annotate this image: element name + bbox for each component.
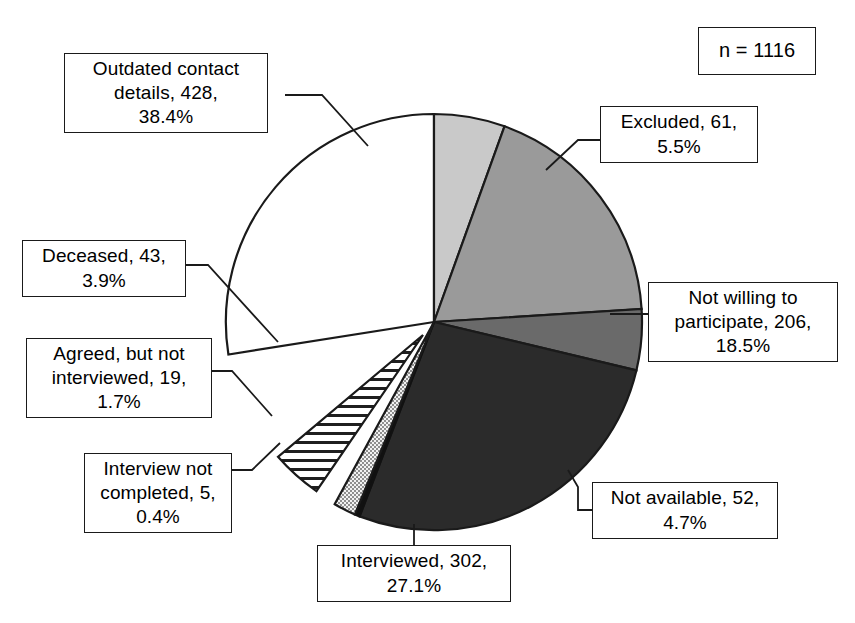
callout-agreed-label: Agreed, but not interviewed, 19, 1.7% xyxy=(52,342,187,415)
callout-not-available[interactable]: Not available, 52, 4.7% xyxy=(592,482,778,539)
callout-not-completed-label: Interview not completed, 5, 0.4% xyxy=(100,457,215,530)
callout-not-available-label: Not available, 52, 4.7% xyxy=(611,486,760,535)
leader-line-not-completed xyxy=(231,443,280,470)
callout-agreed-but-not-interviewed[interactable]: Agreed, but not interviewed, 19, 1.7% xyxy=(26,338,212,418)
leader-line-agreed xyxy=(211,371,272,416)
sample-size-label: n = 1116 xyxy=(719,38,795,64)
callout-outdated-label: Outdated contact details, 428, 38.4% xyxy=(93,57,239,130)
sample-size-box: n = 1116 xyxy=(698,27,816,75)
callout-not-willing-to-participate[interactable]: Not willing to participate, 206, 18.5% xyxy=(648,282,838,362)
callout-excluded-label: Excluded, 61, 5.5% xyxy=(621,110,737,159)
callout-interviewed-label: Interviewed, 302, 27.1% xyxy=(341,549,487,598)
callout-outdated-contact-details[interactable]: Outdated contact details, 428, 38.4% xyxy=(64,53,268,133)
leader-line-not-available xyxy=(568,470,592,510)
callout-not-willing-label: Not willing to participate, 206, 18.5% xyxy=(675,286,812,359)
pie-chart-figure: n = 1116 Outdated contact details, 428, … xyxy=(0,0,855,623)
callout-deceased-label: Deceased, 43, 3.9% xyxy=(42,244,166,293)
callout-deceased[interactable]: Deceased, 43, 3.9% xyxy=(22,240,186,297)
callout-excluded[interactable]: Excluded, 61, 5.5% xyxy=(600,106,758,163)
callout-interview-not-completed[interactable]: Interview not completed, 5, 0.4% xyxy=(84,453,232,533)
callout-interviewed[interactable]: Interviewed, 302, 27.1% xyxy=(317,545,511,602)
